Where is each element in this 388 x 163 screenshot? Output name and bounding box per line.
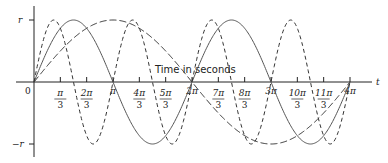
x-tick-label-denominator: 3 [215,100,221,110]
axis-end-label: t [376,77,380,87]
x-tick-label-denominator: 3 [294,100,300,110]
origin-label: 0 [25,86,31,96]
x-tick-label: 10π [289,88,307,98]
x-tick-label: 5π [160,88,173,98]
x-tick-label-denominator: 3 [136,100,142,110]
x-tick-label: 2π [80,88,94,98]
x-tick-label: 11π [315,88,333,98]
x-tick-label-denominator: 3 [163,100,169,110]
x-tick-label-denominator: 3 [57,100,63,110]
x-tick-label-denominator: 3 [84,100,90,110]
x-tick-label: 7π [213,88,226,98]
x-tick-label: 8π [239,88,252,98]
x-tick-label-denominator: 3 [321,100,327,110]
sine-wave-chart: r −r 0 t Time in seconds π32π3π4π35π32π7… [0,0,388,163]
x-tick-label: π [56,88,64,98]
x-tick-label: 4π [133,88,147,98]
y-label-r: r [18,15,23,25]
y-label-neg-r: −r [12,139,25,149]
x-tick-label-denominator: 3 [242,100,248,110]
